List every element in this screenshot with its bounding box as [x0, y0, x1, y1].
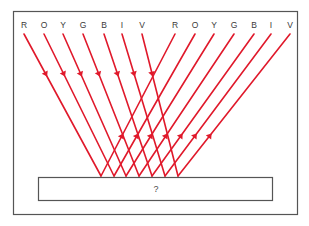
incoming-label-g-3: G [80, 20, 87, 30]
outgoing-label-b-4: B [251, 20, 257, 30]
incoming-label-b-4: B [101, 20, 107, 30]
incoming-label-o-1: O [41, 20, 48, 30]
diagram-canvas: ROYGBIV ROYGBIV ? [0, 0, 309, 226]
incoming-label-v-6: V [139, 20, 145, 30]
light-ray-reflection-diagram: ROYGBIV ROYGBIV ? [0, 0, 309, 226]
outgoing-label-o-1: O [192, 20, 199, 30]
outgoing-label-v-6: V [287, 20, 293, 30]
incoming-label-r-0: R [21, 20, 27, 30]
outgoing-label-r-0: R [172, 20, 178, 30]
outgoing-label-g-3: G [231, 20, 238, 30]
incoming-label-i-5: I [121, 20, 123, 30]
surface-box-question-label: ? [153, 184, 158, 194]
outgoing-label-y-2: Y [211, 20, 217, 30]
incoming-label-y-2: Y [60, 20, 66, 30]
outgoing-label-i-5: I [270, 20, 272, 30]
